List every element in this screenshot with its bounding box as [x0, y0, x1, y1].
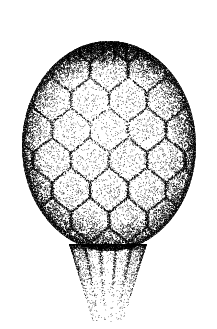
- pine-cone-figure: [0, 0, 217, 329]
- illustration-canvas: [0, 0, 217, 329]
